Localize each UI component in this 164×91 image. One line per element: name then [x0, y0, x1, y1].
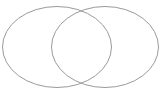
left-set-ellipse — [3, 7, 112, 88]
venn-diagram-svg — [0, 0, 164, 91]
venn-diagram-canvas — [0, 0, 164, 91]
right-set-ellipse — [52, 7, 159, 88]
